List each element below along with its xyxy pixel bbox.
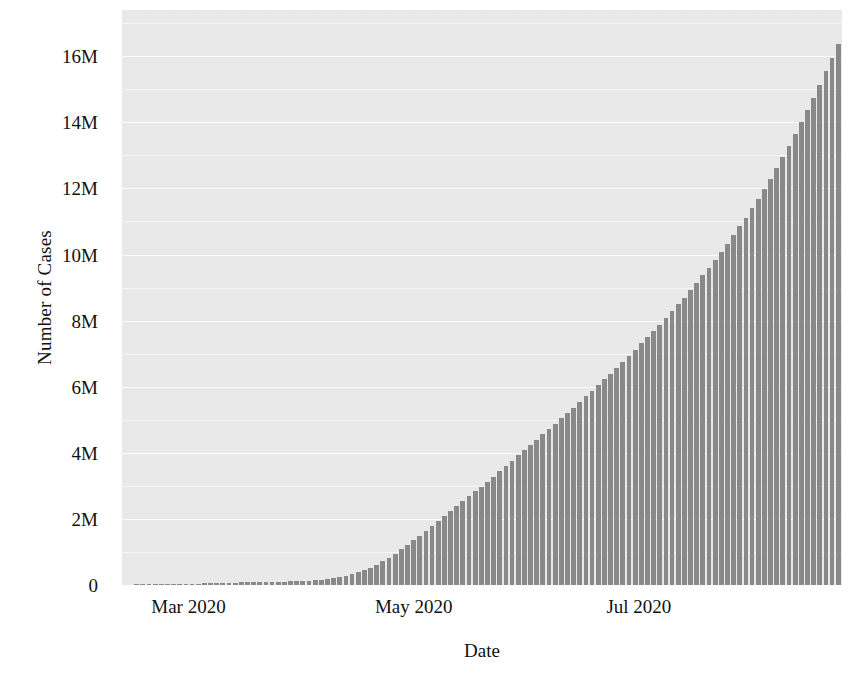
bar [294, 581, 299, 585]
plot-area [122, 10, 842, 585]
bar [707, 268, 712, 585]
bar [614, 368, 619, 585]
bar [417, 536, 422, 585]
bar [331, 578, 336, 585]
bar [577, 402, 582, 585]
bar [147, 584, 152, 585]
bar [430, 526, 435, 585]
bar [276, 582, 281, 585]
y-tick-label: 8M [0, 311, 110, 330]
bar [159, 584, 164, 585]
bar [780, 157, 785, 585]
bar [744, 218, 749, 585]
bar [590, 391, 595, 585]
y-tick-label: 12M [0, 179, 110, 198]
bar [165, 584, 170, 585]
chart-figure: Number of Cases 02M4M6M8M10M12M14M16M Ma… [0, 0, 866, 683]
y-tick-label: 14M [0, 113, 110, 132]
bar [362, 570, 367, 585]
bar [350, 574, 355, 585]
y-axis-tick-labels: 02M4M6M8M10M12M14M16M [0, 0, 110, 683]
bar [559, 418, 564, 585]
bar [719, 252, 724, 585]
bar [651, 331, 656, 585]
x-tick-label: Mar 2020 [151, 596, 225, 619]
bar [608, 374, 613, 585]
bar [645, 337, 650, 585]
bar [553, 424, 558, 585]
bar [282, 582, 287, 585]
bar [325, 579, 330, 585]
bar [184, 584, 189, 585]
bar [762, 189, 767, 585]
bar [208, 583, 213, 585]
bar [251, 582, 256, 585]
bar [799, 122, 804, 585]
bar [805, 110, 810, 585]
bar [682, 298, 687, 586]
bar [756, 199, 761, 585]
bar [196, 584, 201, 585]
bar [516, 455, 521, 585]
bar [497, 471, 502, 585]
y-tick-label: 0 [0, 576, 110, 595]
bar [774, 168, 779, 585]
bar [836, 44, 841, 585]
bar [571, 408, 576, 585]
bar [540, 434, 545, 585]
bar [627, 356, 632, 585]
bar [387, 558, 392, 585]
bar [344, 576, 349, 585]
bar [700, 275, 705, 585]
bar [547, 429, 552, 585]
bar [393, 554, 398, 585]
bar [245, 582, 250, 585]
y-tick-label: 6M [0, 377, 110, 396]
bar [639, 343, 644, 585]
x-axis-tick-labels: Mar 2020May 2020Jul 2020 [0, 596, 866, 624]
bar [264, 582, 269, 585]
bar [300, 581, 305, 585]
bar [510, 461, 515, 585]
bar [725, 244, 730, 585]
bar [565, 413, 570, 585]
bar [270, 582, 275, 585]
bar [485, 482, 490, 585]
bar [134, 584, 139, 585]
bar [688, 290, 693, 585]
bar [424, 531, 429, 585]
bar [214, 583, 219, 585]
bar [202, 583, 207, 585]
bar [491, 477, 496, 585]
bar [602, 379, 607, 585]
bar-series [122, 10, 842, 585]
bar [380, 561, 385, 585]
bar [584, 396, 589, 585]
bar [620, 362, 625, 585]
bar [368, 568, 373, 586]
bar [793, 134, 798, 585]
x-axis-title: Date [122, 640, 842, 662]
bar [534, 440, 539, 585]
bar [713, 260, 718, 585]
bar [504, 466, 509, 585]
bar [411, 540, 416, 585]
bar [479, 487, 484, 585]
bar [817, 85, 822, 585]
bar [768, 179, 773, 585]
bar [694, 283, 699, 585]
bar [670, 311, 675, 585]
bar [313, 580, 318, 585]
y-tick-label: 4M [0, 443, 110, 462]
bar [731, 235, 736, 585]
bar [737, 226, 742, 585]
bar [460, 501, 465, 585]
y-tick-label: 16M [0, 47, 110, 66]
bar [319, 580, 324, 585]
bar [337, 577, 342, 585]
bar [824, 71, 829, 585]
bar [787, 146, 792, 585]
bar [374, 565, 379, 585]
bar [257, 582, 262, 585]
bar [830, 58, 835, 585]
